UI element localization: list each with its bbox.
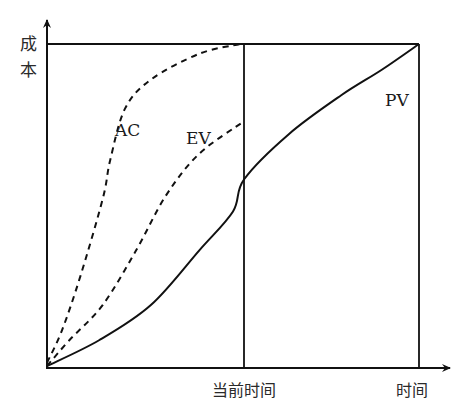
time-label: 时间 [396,381,428,400]
y-axis-label-1: 成 [20,34,37,54]
y-axis-label-2: 本 [20,60,37,80]
pv-curve [47,44,419,366]
ac-curve [47,44,240,363]
ev-label: EV [186,128,211,148]
current-time-label: 当前时间 [212,381,276,400]
earned-value-chart: 成 本 当前时间 时间 AC EV PV [0,0,473,418]
ev-curve [47,121,244,366]
series-layer [47,44,419,366]
ac-label: AC [114,120,140,140]
pv-label: PV [385,90,409,110]
